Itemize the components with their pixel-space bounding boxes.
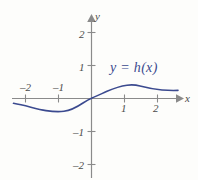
y-axis-label: y — [95, 11, 100, 22]
graph-figure: –2 –1 1 2 2 1 –1 –2 x y y = h(x) — [0, 0, 198, 180]
x-tick-label-1: 1 — [121, 103, 127, 114]
x-tick-label-neg2: –2 — [20, 82, 31, 93]
x-tick-label-neg1: –1 — [53, 82, 64, 93]
y-tick-label-neg1: –1 — [73, 127, 84, 138]
x-tick-label-2: 2 — [153, 103, 159, 114]
y-tick-label-1: 1 — [79, 62, 85, 73]
y-tick-label-2: 2 — [79, 29, 85, 40]
x-axis-arrowhead — [176, 94, 184, 103]
curve-equation-label: y = h(x) — [110, 61, 158, 75]
y-tick-label-neg2: –2 — [73, 160, 84, 171]
x-axis-label: x — [185, 93, 190, 104]
